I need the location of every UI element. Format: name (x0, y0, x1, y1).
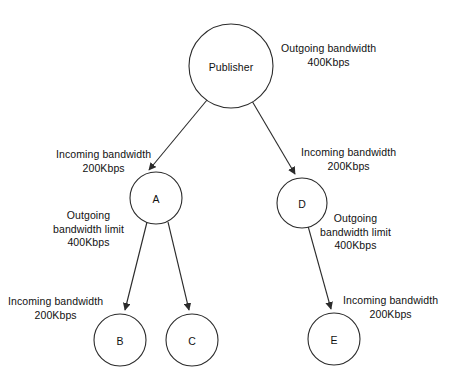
annotation-line-1: Outgoing (67, 209, 110, 221)
annotation-line-1: Outgoing bandwidth (281, 42, 376, 54)
annotation-line-2: bandwidth limit (320, 226, 391, 240)
annotation-line-2: 200Kbps (56, 162, 151, 176)
bandwidth-diagram-canvas (0, 0, 464, 386)
annotation-e-incoming: Incoming bandwidth 200Kbps (343, 294, 438, 321)
annotation-line-1: Incoming bandwidth (8, 295, 103, 307)
annotation-line-1: Incoming bandwidth (301, 146, 396, 158)
annotation-line-1: Incoming bandwidth (343, 294, 438, 306)
node-label-b: B (116, 335, 123, 347)
node-label-e: E (330, 334, 337, 346)
node-label-a: A (152, 193, 159, 205)
annotation-line-2: 200Kbps (343, 308, 438, 322)
annotation-line-2: bandwidth limit (53, 223, 124, 237)
annotation-line-2: 400Kbps (281, 56, 376, 70)
edge-a-to-b (125, 222, 147, 310)
edge-a-to-c (168, 222, 189, 310)
node-label-d: D (298, 198, 306, 210)
annotation-b-incoming: Incoming bandwidth 200Kbps (8, 295, 103, 322)
annotation-line-1: Outgoing (334, 212, 377, 224)
edge-publisher-to-d (252, 101, 295, 174)
annotation-d-incoming: Incoming bandwidth 200Kbps (301, 146, 396, 173)
node-group (94, 24, 360, 366)
annotation-line-2: 200Kbps (301, 160, 396, 174)
node-label-c: C (188, 335, 196, 347)
edge-publisher-to-a (149, 100, 207, 170)
annotation-d-outgoing-limit: Outgoing bandwidth limit 400Kbps (320, 212, 391, 253)
annotation-line-3: 400Kbps (320, 239, 391, 253)
annotation-line-1: Incoming bandwidth (56, 148, 151, 160)
node-label-publisher: Publisher (209, 61, 254, 73)
annotation-publisher-outgoing: Outgoing bandwidth 400Kbps (281, 42, 376, 69)
annotation-line-2: 200Kbps (8, 309, 103, 323)
annotation-a-incoming: Incoming bandwidth 200Kbps (56, 148, 151, 175)
annotation-a-outgoing-limit: Outgoing bandwidth limit 400Kbps (53, 209, 124, 250)
annotation-line-3: 400Kbps (53, 236, 124, 250)
